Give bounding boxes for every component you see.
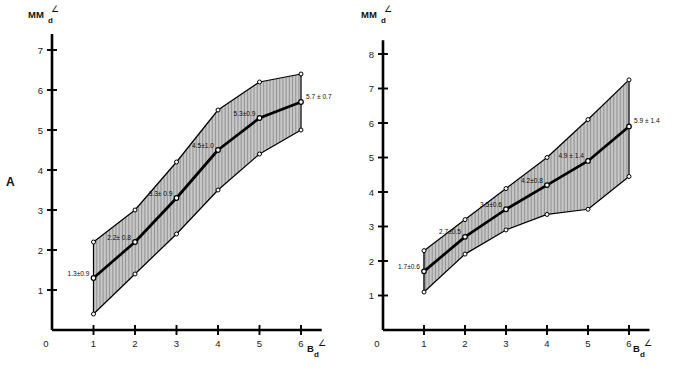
plot-area-b: 1.7±0.62.7±0.53.5±0.64.2±0.84.9 ± 1.45.9… xyxy=(398,78,660,294)
data-point-label: 1.7±0.6 xyxy=(398,263,420,270)
y-axis-title-sup-b: ∠ xyxy=(384,4,392,14)
data-point-label: 2.2± 0.8 xyxy=(107,234,131,241)
x-tick-label: 6 xyxy=(626,338,631,349)
y-tick-label: 5 xyxy=(38,125,43,136)
chart-panel-a: 1.3±0.92.2± 0.83.3± 0.94.5±1.05.3±0.95.7… xyxy=(0,0,340,379)
data-point-label: 2.7±0.5 xyxy=(439,228,461,235)
panel-letter-a: A xyxy=(6,175,15,189)
data-point-label: 3.3± 0.9 xyxy=(149,190,173,197)
y-tick-label: 4 xyxy=(38,165,43,176)
y-tick-label: 1 xyxy=(38,285,43,296)
x-tick-label: 3 xyxy=(503,338,508,349)
y-tick-label: 6 xyxy=(38,85,43,96)
x-tick-label: 4 xyxy=(215,338,220,349)
y-tick-label: 7 xyxy=(369,83,374,94)
data-point-label: 4.9 ± 1.4 xyxy=(558,152,584,159)
y-tick-label: 7 xyxy=(38,45,43,56)
y-axis-title-sub-a: d xyxy=(48,16,53,25)
x-axis-title-sub-a: d xyxy=(314,350,319,359)
x-axis-title-sup-b: ∠ xyxy=(644,338,652,348)
x-tick-label: 5 xyxy=(257,338,262,349)
figure-container: 1.3±0.92.2± 0.83.3± 0.94.5±1.05.3±0.95.7… xyxy=(0,0,673,379)
y-axis-title-a: MM xyxy=(28,9,44,20)
y-tick-label: 5 xyxy=(369,152,374,163)
x-axis-title-b: B xyxy=(633,343,640,354)
data-point-label: 5.3±0.9 xyxy=(234,110,256,117)
y-tick-label: 3 xyxy=(38,205,43,216)
chart-svg-a: 1.3±0.92.2± 0.83.3± 0.94.5±1.05.3±0.95.7… xyxy=(0,0,340,379)
data-point-label: 5.9 ± 1.4 xyxy=(634,117,660,124)
x-tick-label: 2 xyxy=(462,338,467,349)
plot-area-a: 1.3±0.92.2± 0.83.3± 0.94.5±1.05.3±0.95.7… xyxy=(68,72,332,316)
data-point-label: 5.7 ± 0.7 xyxy=(306,93,332,100)
chart-panel-b: 1.7±0.62.7±0.53.5±0.64.2±0.84.9 ± 1.45.9… xyxy=(333,0,673,379)
y-tick-label: 6 xyxy=(369,118,374,129)
y-tick-label: 2 xyxy=(38,245,43,256)
y-tick-label: 4 xyxy=(369,187,374,198)
chart-svg-b: 1.7±0.62.7±0.53.5±0.64.2±0.84.9 ± 1.45.9… xyxy=(333,0,673,379)
x-axis-title-sub-b: d xyxy=(640,350,645,359)
x-tick-label: 1 xyxy=(91,338,96,349)
x-tick-label: 1 xyxy=(421,338,426,349)
y-tick-label: 8 xyxy=(369,49,374,60)
x-axis-title-a: B xyxy=(307,343,314,354)
x-tick-label: 2 xyxy=(132,338,137,349)
y-axis-title-b: MM xyxy=(361,9,377,20)
y-tick-label: 1 xyxy=(369,290,374,301)
x-tick-label: 0 xyxy=(43,338,48,349)
x-tick-label: 5 xyxy=(585,338,590,349)
y-axis-title-sub-b: d xyxy=(381,16,386,25)
axes-b: 123456780123456 xyxy=(369,40,650,349)
data-point-label: 1.3±0.9 xyxy=(68,270,90,277)
x-axis-title-sup-a: ∠ xyxy=(318,338,326,348)
data-point-label: 4.5±1.0 xyxy=(192,142,214,149)
data-point-label: 3.5±0.6 xyxy=(480,201,502,208)
y-tick-label: 3 xyxy=(369,221,374,232)
x-tick-label: 4 xyxy=(544,338,549,349)
y-tick-label: 2 xyxy=(369,256,374,267)
x-tick-label: 0 xyxy=(374,338,379,349)
x-tick-label: 3 xyxy=(174,338,179,349)
x-tick-label: 6 xyxy=(298,338,303,349)
axes-a: 12345670123456 xyxy=(38,34,322,349)
data-point-label: 4.2±0.8 xyxy=(521,177,543,184)
y-axis-title-sup-a: ∠ xyxy=(51,4,59,14)
